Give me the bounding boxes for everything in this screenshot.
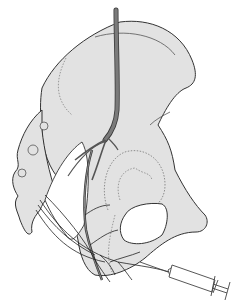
syringe-icon [140, 262, 230, 300]
pelvis-illustration: Pelvis illustration with nerve (vessel) … [0, 0, 237, 306]
hip-bone [13, 21, 207, 275]
